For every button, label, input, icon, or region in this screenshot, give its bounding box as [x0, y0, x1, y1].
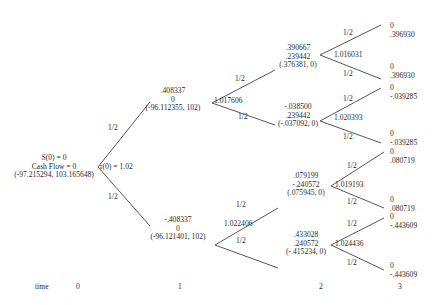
node-du: .079199 -.240572 (.075945, 0)	[287, 172, 324, 198]
leaf-8-line2: -.443609	[390, 271, 417, 280]
time-tick-0: 0	[76, 283, 80, 292]
leaf-3-line2: -.039285	[390, 93, 417, 102]
root-values: (-97.215294, 103.165648)	[14, 171, 94, 180]
leaf-7-line2: -.443609	[390, 222, 417, 231]
leaf-1-line2: .396930	[390, 31, 415, 40]
node-u-prob-down: 1/2	[238, 113, 248, 122]
node-u-prob-up: 1/2	[235, 75, 245, 84]
node-dd-line3: (-.415234, 0)	[286, 248, 326, 257]
leaf-6: 0 .080719	[390, 196, 415, 213]
branch-dd-down	[331, 245, 384, 270]
leaf-5: 0 .080719	[390, 148, 415, 165]
node-dd: .433028 .240572 (-.415234, 0)	[286, 231, 326, 257]
node-du-rate: 1.019193	[335, 181, 363, 190]
node-u-rate: 1.017606	[214, 97, 242, 106]
root-node: S(0) = 0 Cash Flow = 0 (-97.215294, 103.…	[14, 154, 94, 180]
node-du-line3: (.075945, 0)	[287, 189, 324, 198]
leaf-1: 0 .396930	[390, 22, 415, 39]
leaf-5-line2: .080719	[390, 157, 415, 166]
node-dd-rate: 1.024436	[335, 240, 363, 249]
time-axis-label: time	[35, 283, 49, 292]
branch-d-down	[215, 245, 278, 268]
node-uu-prob-down: 1/2	[343, 70, 353, 79]
node-du-prob-up: 1/2	[347, 162, 357, 171]
node-dd-prob-up: 1/2	[347, 220, 357, 229]
node-dd-prob-down: 1/2	[347, 259, 357, 268]
node-d: -.408337 0 (-96.121401, 102)	[150, 216, 205, 242]
node-d-line3: (-96.121401, 102)	[150, 233, 205, 242]
node-u-line3: (-96.112355, 102)	[146, 104, 201, 113]
node-ud-line3: (-.037092, 0)	[278, 120, 318, 129]
node-d-rate: 1.022406	[224, 220, 252, 229]
node-uu: .390667 .239442 (.376381, 0)	[279, 44, 316, 70]
leaf-2: 0 .396930	[390, 63, 415, 80]
leaf-3: 0 -.039285	[390, 84, 417, 101]
node-ud-prob-down: 1/2	[343, 133, 353, 142]
node-ud-prob-up: 1/2	[343, 95, 353, 104]
leaf-4-line2: -.039285	[390, 139, 417, 148]
branch-root-down	[98, 167, 150, 226]
branch-root-up	[98, 102, 150, 167]
time-tick-1: 1	[178, 283, 182, 292]
time-tick-3: 3	[398, 283, 402, 292]
leaf-7: 0 -.443609	[390, 213, 417, 230]
root-prob-up: 1/2	[108, 124, 118, 133]
node-du-prob-down: 1/2	[347, 198, 357, 207]
node-ud: -.038500 .239442 (-.037092, 0)	[278, 103, 318, 129]
root-prob-down: 1/2	[108, 193, 118, 202]
node-d-prob-up: 1/2	[236, 201, 246, 210]
node-uu-prob-up: 1/2	[343, 29, 353, 38]
node-d-prob-down: 1/2	[236, 237, 246, 246]
leaf-8: 0 -.443609	[390, 262, 417, 279]
leaf-4: 0 -.039285	[390, 130, 417, 147]
node-ud-rate: 1.020393	[334, 114, 362, 123]
root-rate: r(0) = 1.02	[100, 163, 133, 172]
node-u: .408337 0 (-96.112355, 102)	[146, 87, 201, 113]
time-tick-2: 2	[319, 283, 323, 292]
leaf-2-line2: .396930	[390, 72, 415, 81]
node-uu-rate: 1.016031	[334, 51, 362, 60]
node-uu-line3: (.376381, 0)	[279, 61, 316, 70]
